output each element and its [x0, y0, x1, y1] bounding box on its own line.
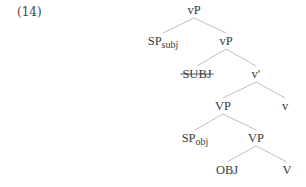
tree-edge-vP_root-SP_subj [163, 18, 194, 33]
tree-edge-VP_2-V_head [256, 146, 287, 162]
tree-edge-v_bar-VP_1 [223, 82, 256, 98]
tree-edge-VP_1-VP_2 [223, 114, 256, 130]
tree-node-VP_2: VP [248, 131, 264, 145]
tree-node-OBJ: OBJ [216, 163, 238, 177]
tree-node-v_bar: v′ [252, 67, 261, 81]
tree-edge-VP_1-SP_obj [195, 114, 223, 130]
tree-edge-VP_2-OBJ [227, 146, 256, 162]
tree-node-VP_1: VP [215, 99, 231, 113]
tree-edge-vP_2-v_bar [226, 49, 256, 66]
tree-node-vP_root: vP [187, 3, 200, 17]
tree-node-V_head: V [282, 163, 291, 177]
tree-edge-v_bar-v_head [256, 82, 285, 98]
tree-edge-vP_2-SUBJ [197, 49, 226, 66]
tree-edge-vP_root-vP_2 [194, 18, 226, 33]
tree-node-SP_subj: SPsubj [148, 34, 179, 50]
tree-node-v_head: v [282, 99, 289, 113]
syntax-tree: vPSPsubjvPSUBJv′VPvSPobjVPOBJV [0, 0, 306, 187]
tree-node-vP_2: vP [219, 34, 232, 48]
tree-node-SP_obj: SPobj [182, 131, 209, 147]
